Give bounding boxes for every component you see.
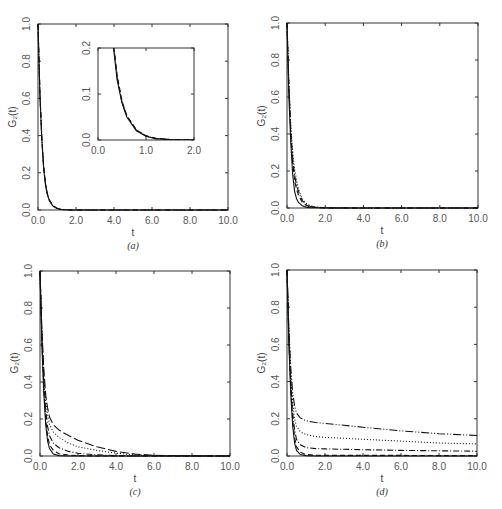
curves bbox=[40, 271, 230, 456]
y-tick-label: 0.0 bbox=[270, 201, 281, 215]
panel-d: 0.02.04.06.08.010.00.00.20.40.60.81.0 t … bbox=[256, 263, 487, 498]
plot-frame bbox=[40, 271, 230, 456]
inset-curve-dashed bbox=[98, 0, 194, 140]
x-tick-label: 6.0 bbox=[145, 215, 159, 226]
curves bbox=[287, 23, 478, 208]
x-tick-label: 2.0 bbox=[318, 461, 332, 472]
y-tick-label: 1.0 bbox=[270, 263, 281, 277]
y-tick-label: 0.0 bbox=[21, 203, 32, 217]
inset-curves bbox=[98, 0, 194, 140]
panel-a: 0.02.04.06.08.010.00.00.20.40.60.81.0 t … bbox=[7, 0, 238, 252]
x-tick-label: 6.0 bbox=[395, 213, 409, 224]
panel-b: 0.02.04.06.08.010.00.00.20.40.60.81.0 t … bbox=[256, 16, 488, 250]
curve-dotted bbox=[40, 271, 230, 456]
inset-curve-solid bbox=[98, 0, 194, 140]
ticks: 0.02.04.06.08.010.00.00.20.40.60.81.0 bbox=[270, 263, 487, 472]
x-tick-label: 10.0 bbox=[220, 461, 240, 472]
x-tick-label: 0.0 bbox=[280, 461, 294, 472]
x-tick-label: 8.0 bbox=[432, 461, 446, 472]
curve-dashed bbox=[287, 23, 478, 208]
y-tick-label: 0.4 bbox=[23, 375, 34, 389]
inset-curve-dash-dot bbox=[98, 0, 194, 140]
panel-caption: (a) bbox=[127, 240, 139, 252]
curve-dashed bbox=[38, 24, 228, 210]
panel-caption: (d) bbox=[376, 486, 388, 498]
curves bbox=[287, 270, 477, 456]
curves bbox=[38, 24, 228, 210]
inset: 0.01.02.00.00.10.2 bbox=[81, 0, 201, 156]
y-tick-label: 0.0 bbox=[270, 449, 281, 463]
plot-frame bbox=[287, 23, 478, 208]
plot-frame bbox=[287, 270, 477, 456]
curve-dashed bbox=[40, 271, 230, 456]
x-axis-label: t bbox=[381, 473, 384, 484]
curve-dash-dot bbox=[287, 270, 477, 451]
y-tick-label: 1.0 bbox=[21, 17, 32, 31]
x-axis-label: t bbox=[381, 225, 384, 236]
x-tick-label: 10.0 bbox=[218, 215, 238, 226]
y-tick-label: 0.2 bbox=[81, 41, 92, 55]
curve-dashed bbox=[287, 270, 477, 456]
curve-dash-dot bbox=[287, 23, 478, 208]
x-tick-label: 6.0 bbox=[394, 461, 408, 472]
x-tick-label: 10.0 bbox=[467, 461, 487, 472]
x-tick-label: 4.0 bbox=[356, 213, 370, 224]
inset-ticks: 0.01.02.00.00.10.2 bbox=[81, 41, 201, 156]
curve-dash-dot bbox=[40, 271, 230, 456]
curve-long-dash bbox=[40, 271, 230, 456]
curve-solid bbox=[40, 271, 230, 456]
y-tick-label: 0.8 bbox=[270, 300, 281, 314]
y-axis-label: G₂(t) bbox=[7, 106, 18, 127]
y-tick-label: 0.2 bbox=[23, 412, 34, 426]
x-tick-label: 8.0 bbox=[185, 461, 199, 472]
x-tick-label: 4.0 bbox=[109, 461, 123, 472]
y-tick-label: 0.0 bbox=[81, 133, 92, 147]
y-tick-label: 0.2 bbox=[270, 164, 281, 178]
x-tick-label: 0.0 bbox=[33, 461, 47, 472]
x-axis-label: t bbox=[134, 473, 137, 484]
curve-solid bbox=[287, 270, 477, 456]
curve-dash-dot-dot bbox=[287, 270, 477, 436]
figure: 0.02.04.06.08.010.00.00.20.40.60.81.0 t … bbox=[0, 0, 502, 509]
x-tick-label: 4.0 bbox=[107, 215, 121, 226]
curve-dotted bbox=[287, 23, 478, 208]
curve-dotted bbox=[287, 270, 477, 444]
y-tick-label: 0.6 bbox=[23, 338, 34, 352]
panel-caption: (b) bbox=[376, 238, 388, 250]
inset-frame bbox=[98, 48, 194, 140]
plot-frame bbox=[38, 24, 228, 210]
y-tick-label: 0.4 bbox=[21, 128, 32, 142]
x-tick-label: 2.0 bbox=[69, 215, 83, 226]
y-axis-label: G₂(t) bbox=[9, 352, 20, 373]
y-tick-label: 0.2 bbox=[270, 411, 281, 425]
x-tick-label: 0.0 bbox=[91, 145, 105, 156]
y-axis-label: G₂(t) bbox=[256, 352, 267, 373]
y-tick-label: 0.8 bbox=[270, 53, 281, 67]
curve-dash-dot bbox=[38, 24, 228, 210]
curve-solid bbox=[287, 23, 478, 208]
x-tick-label: 1.0 bbox=[139, 145, 153, 156]
y-tick-label: 1.0 bbox=[23, 264, 34, 278]
y-tick-label: 0.2 bbox=[21, 165, 32, 179]
y-tick-label: 0.1 bbox=[81, 87, 92, 101]
x-tick-label: 8.0 bbox=[183, 215, 197, 226]
y-tick-label: 0.8 bbox=[23, 301, 34, 315]
x-tick-label: 6.0 bbox=[147, 461, 161, 472]
y-tick-label: 0.4 bbox=[270, 127, 281, 141]
x-tick-label: 0.0 bbox=[31, 215, 45, 226]
y-tick-label: 0.6 bbox=[21, 91, 32, 105]
panel-c: 0.02.04.06.08.010.00.00.20.40.60.81.0 t … bbox=[9, 264, 240, 498]
y-tick-label: 0.4 bbox=[270, 374, 281, 388]
x-tick-label: 10.0 bbox=[468, 213, 488, 224]
x-tick-label: 2.0 bbox=[318, 213, 332, 224]
y-tick-label: 0.6 bbox=[270, 90, 281, 104]
x-tick-label: 8.0 bbox=[433, 213, 447, 224]
y-tick-label: 0.0 bbox=[23, 449, 34, 463]
y-tick-label: 0.8 bbox=[21, 54, 32, 68]
ticks: 0.02.04.06.08.010.00.00.20.40.60.81.0 bbox=[270, 16, 488, 224]
ticks: 0.02.04.06.08.010.00.00.20.40.60.81.0 bbox=[23, 264, 240, 472]
curve-solid bbox=[38, 24, 228, 210]
x-axis-label: t bbox=[132, 227, 135, 238]
x-tick-label: 4.0 bbox=[356, 461, 370, 472]
panel-caption: (c) bbox=[129, 486, 141, 498]
